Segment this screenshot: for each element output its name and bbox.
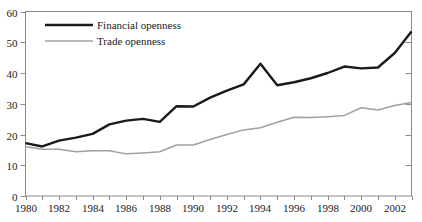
x-tick-label: 1990 [182,202,205,214]
line-chart: 0102030405060 19801982198419861988199019… [0,0,422,222]
legend-label-financial-openness: Financial openness [97,19,181,31]
x-tick-label: 1984 [82,202,105,214]
x-axis-ticks [27,196,413,200]
legend-label-trade-openness: Trade openness [97,35,165,47]
x-axis-tick-labels: 1980198219841986198819901992199419961998… [15,202,406,214]
y-tick-label: 30 [7,99,19,111]
y-axis-ticks [21,13,26,197]
y-tick-label: 0 [12,191,18,203]
x-tick-label: 1986 [115,202,138,214]
plot-border [26,12,412,197]
chart-legend: Financial opennessTrade openness [45,19,181,47]
x-tick-label: 2000 [350,202,373,214]
y-tick-label: 60 [7,7,19,19]
x-tick-label: 1998 [317,202,340,214]
x-tick-label: 1996 [283,202,306,214]
x-tick-label: 1980 [15,202,38,214]
series-line-trade-openness [26,103,412,154]
y-tick-label: 20 [7,130,19,142]
data-series-group [26,31,412,153]
series-line-financial-openness [26,31,412,146]
x-tick-label: 2002 [384,202,406,214]
x-tick-label: 1992 [216,202,238,214]
y-tick-label: 40 [7,68,19,80]
x-tick-label: 1994 [249,202,272,214]
x-tick-label: 1988 [149,202,172,214]
y-tick-label: 10 [7,160,19,172]
y-tick-label: 50 [7,37,19,49]
chart-container: 0102030405060 19801982198419861988199019… [0,0,422,222]
plot-frame [26,12,412,197]
x-tick-label: 1982 [48,202,70,214]
y-axis-tick-labels: 0102030405060 [7,7,19,203]
